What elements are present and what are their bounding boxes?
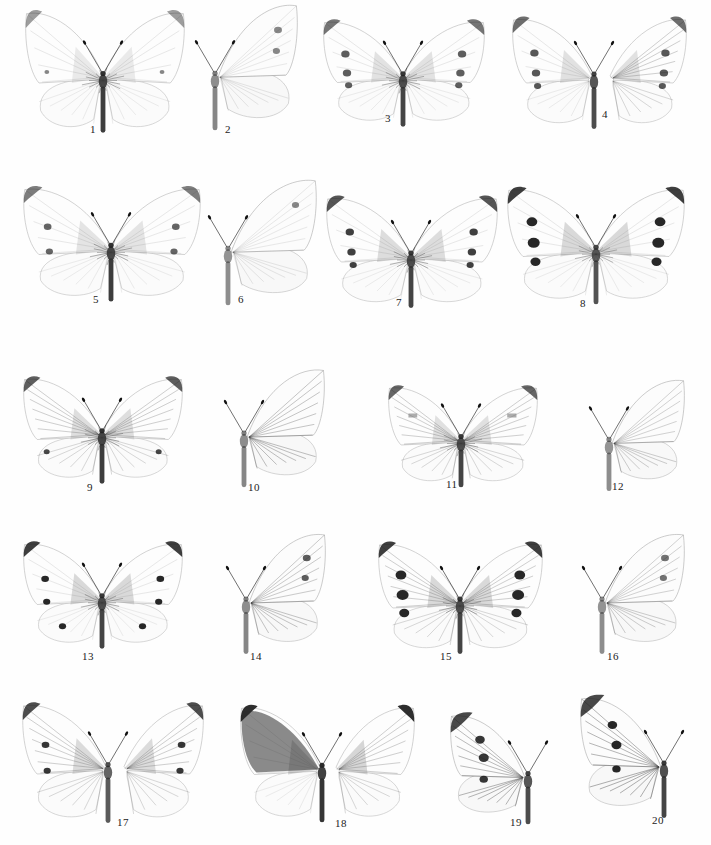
figure-number-label: 20 (652, 814, 664, 826)
butterfly-illustration-20 (0, 0, 711, 845)
butterfly-figure-20: 20 (0, 0, 711, 845)
butterfly-plate: 1234567891011121314151617181920 (0, 0, 711, 845)
